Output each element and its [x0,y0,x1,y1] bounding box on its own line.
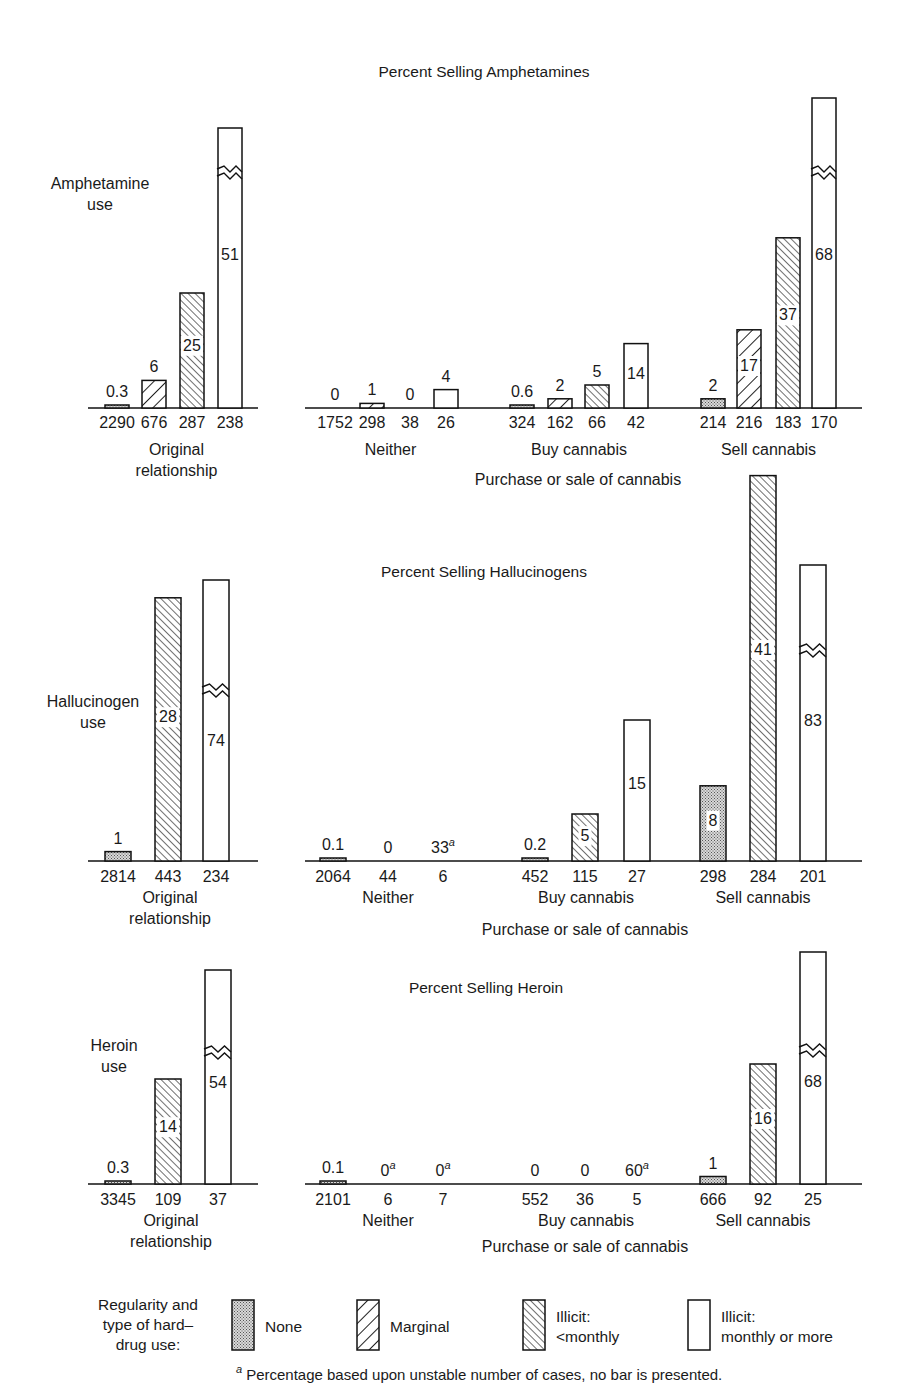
bar-value-label: 0.1 [322,1159,344,1176]
bar-lt_monthly [585,385,609,408]
bar-value-label: 15 [628,775,646,792]
bar-lt_monthly [750,476,776,861]
legend-label: monthly or more [721,1328,833,1345]
bar-monthly [800,952,826,1184]
bar-group-buy-cannabis: 0.632421625661442Buy cannabis [509,344,648,458]
row-label: use [101,1058,127,1075]
bar-value-label: 1 [114,830,123,847]
sample-size-label: 676 [141,414,168,431]
sample-size-label: 1752 [317,414,353,431]
legend: Regularity andtype of hard–drug use:None… [98,1296,833,1353]
bar-lt_monthly [155,598,181,861]
legend-swatch-marginal [357,1300,379,1350]
group-label: relationship [130,1233,212,1250]
sample-size-label: 2290 [99,414,135,431]
sample-size-label: 234 [203,868,230,885]
bar-value-label: 0 [384,839,393,856]
bar-value-label: 74 [207,732,225,749]
bar-value-label: 1 [709,1155,718,1172]
legend-item-lt_monthly: Illicit:<monthly [523,1300,620,1350]
bar-value-label: 16 [754,1110,772,1127]
sample-size-label: 443 [155,868,182,885]
bar-value-label: 41 [754,641,772,658]
bar-group-buy-cannabis: 055203660a5Buy cannabis [522,1159,649,1229]
sample-size-label: 27 [628,868,646,885]
bar-group-neither: 0.1206404433a6Neither [315,836,455,906]
bar-value-label: 8 [709,812,718,829]
footnote-text: aPercentage based upon unstable number o… [236,1363,722,1383]
sample-size-label: 109 [155,1191,182,1208]
bar-monthly [434,390,458,408]
group-label: Original [143,1212,198,1229]
sample-size-label: 552 [522,1191,549,1208]
bar-value-label: 0.1 [322,836,344,853]
legend-item-monthly: Illicit:monthly or more [688,1300,833,1350]
legend-swatch-monthly [688,1300,710,1350]
bar-value-label: 51 [221,246,239,263]
sample-size-label: 37 [209,1191,227,1208]
group-label: Buy cannabis [538,1212,634,1229]
row-label: use [87,196,113,213]
bar-value-label: 1 [368,381,377,398]
sample-size-label: 214 [700,414,727,431]
sample-size-label: 42 [627,414,645,431]
sample-size-label: 216 [736,414,763,431]
sample-size-label: 452 [522,868,549,885]
sample-size-label: 115 [572,868,598,885]
bar-value-label: 83 [804,712,822,729]
bar-value-label: 14 [159,1118,177,1135]
bar-value-label: 28 [159,708,177,725]
bar-value-label: 25 [183,337,201,354]
bar-group-neither: 017521298038426Neither [317,368,458,458]
legend-title: type of hard– [103,1316,194,1333]
sample-size-label: 238 [217,414,244,431]
figure-root: Percent Selling AmphetaminesAmphetamineu… [0,0,911,1387]
legend-label: <monthly [556,1328,620,1345]
legend-label: None [265,1318,302,1335]
group-label: Sell cannabis [715,1212,810,1229]
sample-size-label: 183 [775,414,802,431]
chart-title: Percent Selling Amphetamines [378,63,589,80]
group-label: Original [142,889,197,906]
bar-value-label: 0.6 [511,383,533,400]
bar-value-label: 0 [331,386,340,403]
legend-label: Marginal [390,1318,449,1335]
group-label: Buy cannabis [531,441,627,458]
chart-panels: Percent Selling AmphetaminesAmphetamineu… [47,63,862,1255]
legend-label: Illicit: [556,1308,590,1325]
chart-title: Percent Selling Hallucinogens [381,563,587,580]
bar-group-sell-cannabis: 166616926825Sell cannabis [700,952,826,1229]
sample-size-label: 26 [437,414,455,431]
chart-panel-2: Percent Selling HallucinogensHallucinoge… [47,476,862,938]
bar-group-neither: 0.121010a60a7Neither [315,1159,450,1229]
sample-size-label: 162 [547,414,574,431]
bar-value-label: 5 [581,827,590,844]
bar-value-label: 0 [531,1162,540,1179]
bar-none [701,399,725,408]
sample-size-label: 66 [588,414,606,431]
bar-none [522,858,548,861]
footnote: aPercentage based upon unstable number o… [236,1363,722,1383]
chart-title: Percent Selling Heroin [409,979,563,996]
sample-size-label: 201 [800,868,827,885]
bar-value-label: 6 [150,358,159,375]
sample-size-label: 7 [439,1191,448,1208]
bar-monthly [203,580,229,861]
legend-title: Regularity and [98,1296,198,1313]
legend-item-marginal: Marginal [357,1300,449,1350]
bar-value-label: 60a [625,1159,649,1179]
bar-none [700,1177,726,1185]
sample-size-label: 6 [384,1191,393,1208]
sample-size-label: 666 [700,1191,727,1208]
x-axis-title: Purchase or sale of cannabis [482,921,688,938]
bar-value-label: 68 [815,246,833,263]
row-label: Heroin [90,1037,137,1054]
chart-panel-3: Percent Selling HeroinHeroinuse0.3334514… [88,952,862,1255]
sample-size-label: 6 [439,868,448,885]
bar-value-label: 4 [442,368,451,385]
bar-none [510,405,534,408]
bar-value-label: 33a [431,836,455,856]
group-label: Neither [365,441,417,458]
sample-size-label: 287 [179,414,206,431]
bar-value-label: 0 [581,1162,590,1179]
